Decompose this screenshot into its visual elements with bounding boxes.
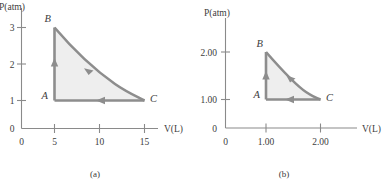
- x-axis-title-b: V(L): [362, 124, 381, 135]
- panel-caption-b: (b): [187, 169, 381, 179]
- x-axis-title-a: V(L): [164, 124, 183, 135]
- point-label-A-b: A: [253, 89, 261, 100]
- x-origin-label-a: 0: [19, 137, 24, 147]
- y-tick-label-3-a: 3: [10, 23, 15, 33]
- y-axis-title-a: P(atm): [0, 2, 25, 13]
- x-tick-label-15-a: 15: [140, 137, 150, 147]
- pv-diagram-a: 1 2 3 0 0 5 10 15 P(atm) V(L) A B C: [0, 0, 194, 181]
- point-label-B-a: B: [45, 13, 52, 24]
- x-origin-label-b: 0: [223, 137, 228, 147]
- pv-diagram-b: 1.00 2.00 0 0 1.00 2.00 P(atm) V(L) A B …: [194, 0, 388, 181]
- x-tick-label-10-a: 10: [95, 137, 105, 147]
- cycle-fill-b: [266, 52, 321, 100]
- y-tick-label-2-b: 2.00: [200, 48, 217, 58]
- cycle-fill-a: [55, 28, 145, 101]
- panel-b: 1.00 2.00 0 0 1.00 2.00 P(atm) V(L) A B …: [194, 0, 388, 181]
- panel-caption-a: (a): [0, 169, 192, 179]
- x-tick-label-5-a: 5: [52, 137, 57, 147]
- y-tick-label-1-a: 1: [10, 96, 15, 106]
- point-label-A-a: A: [41, 90, 49, 101]
- y-axis-title-b: P(atm): [204, 8, 230, 19]
- point-label-B-b: B: [257, 38, 264, 49]
- x-tick-label-1-b: 1.00: [258, 137, 275, 147]
- y-origin-label-b: 0: [212, 124, 217, 134]
- point-label-C-b: C: [326, 92, 334, 103]
- point-label-C-a: C: [150, 93, 158, 104]
- panel-a: 1 2 3 0 0 5 10 15 P(atm) V(L) A B C (a): [0, 0, 194, 181]
- y-tick-label-2-a: 2: [10, 60, 15, 70]
- y-tick-label-1-b: 1.00: [200, 95, 217, 105]
- x-tick-label-2-b: 2.00: [312, 137, 329, 147]
- figure-container: 1 2 3 0 0 5 10 15 P(atm) V(L) A B C (a): [0, 0, 389, 181]
- y-origin-label-a: 0: [10, 124, 15, 134]
